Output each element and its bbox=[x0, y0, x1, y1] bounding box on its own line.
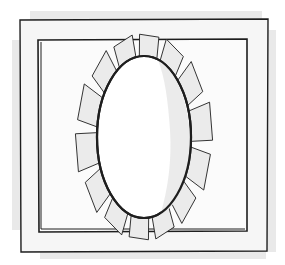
framed-oval-mirror-illustration bbox=[0, 0, 285, 265]
